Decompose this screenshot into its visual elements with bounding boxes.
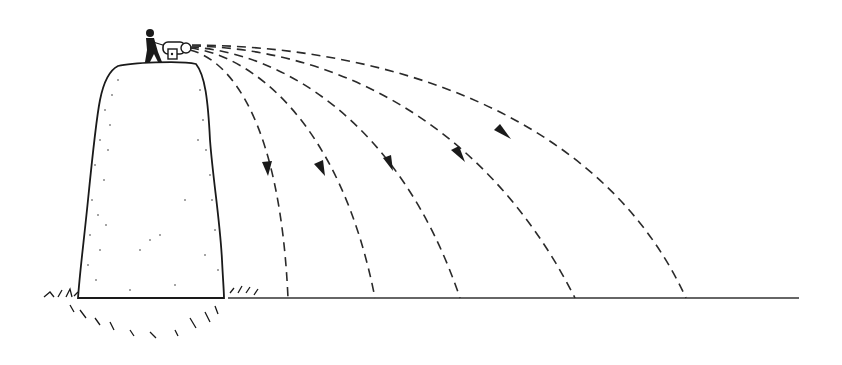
arrow-icon [262, 161, 272, 176]
trajectory-4 [192, 46, 575, 298]
arrow-icon [314, 160, 325, 176]
diagram-canvas [0, 0, 842, 365]
direction-arrows [262, 124, 511, 176]
arrow-icon [451, 146, 465, 162]
trajectory-3 [190, 47, 460, 298]
cannon [163, 42, 191, 59]
arrow-icon [494, 124, 511, 139]
rock-pillar [78, 62, 224, 298]
trajectories [190, 45, 686, 298]
cannon-diagram [0, 0, 842, 365]
